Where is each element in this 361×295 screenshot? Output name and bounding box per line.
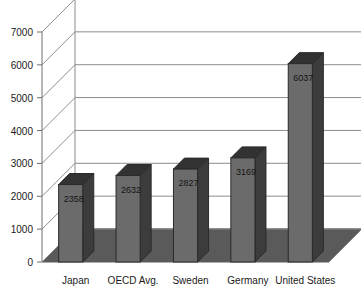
bar-value-label: 2827	[178, 178, 198, 188]
y-axis-tick-label: 4000	[11, 126, 34, 137]
bar-side-face	[83, 174, 94, 262]
y-axis-tick-label: 6000	[11, 60, 34, 71]
bar-front-face	[288, 64, 312, 262]
bar-sweden: 2827	[173, 158, 208, 262]
x-axis-category-label: Germany	[227, 275, 268, 286]
x-axis-category-label: Japan	[62, 275, 89, 286]
y-axis-tick-label: 1000	[11, 224, 34, 235]
bar-value-label: 2632	[121, 185, 141, 195]
y-axis-tick-labels: 01000200030004000500060007000	[11, 27, 34, 268]
bar-side-face	[198, 158, 209, 262]
y-axis-tick-label: 2000	[11, 191, 34, 202]
y-axis-tick-label: 7000	[11, 27, 34, 38]
bar-chart-3d: 01000200030004000500060007000 2358263228…	[0, 0, 361, 295]
bar-germany: 3169	[231, 147, 266, 262]
x-axis-category-labels: JapanOECD Avg.SwedenGermanyUnited States	[62, 275, 335, 286]
bar-side-face	[312, 53, 323, 262]
bar-side-face	[140, 165, 151, 262]
bar-value-label: 2358	[64, 194, 84, 204]
chart-container: 01000200030004000500060007000 2358263228…	[0, 0, 361, 295]
y-axis	[37, 32, 42, 262]
bar-value-label: 3169	[236, 167, 256, 177]
bar-side-face	[255, 147, 266, 262]
bar-japan: 2358	[59, 174, 94, 262]
bar-united-states: 6037	[288, 53, 323, 262]
x-axis-category-label: OECD Avg.	[108, 275, 159, 286]
bar-oecd-avg: 2632	[116, 165, 151, 262]
x-axis-category-label: Sweden	[172, 275, 208, 286]
y-axis-tick-label: 0	[27, 257, 33, 268]
y-axis-tick-label: 5000	[11, 93, 34, 104]
bar-value-label: 6037	[293, 73, 313, 83]
y-axis-tick-label: 3000	[11, 158, 34, 169]
x-axis-category-label: United States	[275, 275, 335, 286]
